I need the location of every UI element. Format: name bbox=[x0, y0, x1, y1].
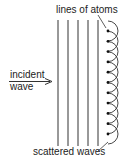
diffraction-diagram: lines of atoms incident wave scattered w… bbox=[0, 0, 135, 161]
atom-dot-2 bbox=[107, 40, 110, 43]
atom-dot-4 bbox=[107, 61, 110, 64]
scattered-wavelets bbox=[108, 21, 118, 144]
atom-dot-11 bbox=[107, 133, 110, 136]
atom-dot-6 bbox=[107, 81, 110, 84]
label-scattered-waves: scattered waves bbox=[33, 146, 105, 157]
atom-dot-3 bbox=[107, 50, 110, 53]
atom-dot-9 bbox=[107, 112, 110, 115]
label-lines-of-atoms: lines of atoms bbox=[56, 4, 118, 15]
leader-top bbox=[98, 15, 106, 28]
atom-lines bbox=[58, 20, 98, 146]
atom-dot-8 bbox=[107, 102, 110, 105]
atom-dot-7 bbox=[107, 91, 110, 94]
atom-dot-5 bbox=[107, 71, 110, 74]
atom-dot-10 bbox=[107, 122, 110, 125]
atoms bbox=[107, 30, 110, 136]
label-wave: wave bbox=[9, 81, 34, 92]
label-incident: incident bbox=[10, 69, 45, 80]
atom-dot-1 bbox=[107, 30, 110, 33]
